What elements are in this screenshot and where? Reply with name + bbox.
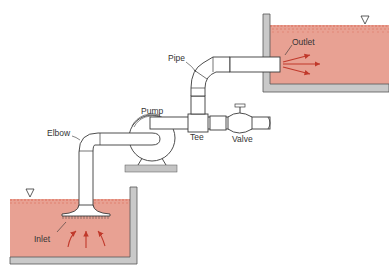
valve-coupling xyxy=(210,116,226,130)
upper-reservoir xyxy=(263,14,389,92)
free-surface-icon xyxy=(361,16,369,24)
upper-water xyxy=(270,25,389,85)
label-valve: Valve xyxy=(232,134,253,144)
piping-system-diagram: Pipe Outlet Pump Elbow Tee Valve Inlet xyxy=(0,0,389,273)
riser-pipe xyxy=(191,96,205,114)
label-outlet: Outlet xyxy=(292,37,315,47)
label-pipe: Pipe xyxy=(168,53,185,63)
valve-handwheel xyxy=(235,104,245,107)
free-surface-icon xyxy=(26,189,34,197)
tee xyxy=(188,114,208,132)
lower-reservoir xyxy=(10,187,137,264)
pump-base xyxy=(125,165,177,172)
label-tee: Tee xyxy=(190,132,204,142)
upper-elbow xyxy=(191,57,230,96)
label-pump: Pump xyxy=(141,106,163,116)
lower-water xyxy=(10,199,130,257)
elbow-leader xyxy=(72,136,80,140)
outlet-pipe xyxy=(230,57,280,72)
label-elbow: Elbow xyxy=(47,128,71,138)
valve xyxy=(228,113,252,133)
label-inlet: Inlet xyxy=(34,234,51,244)
